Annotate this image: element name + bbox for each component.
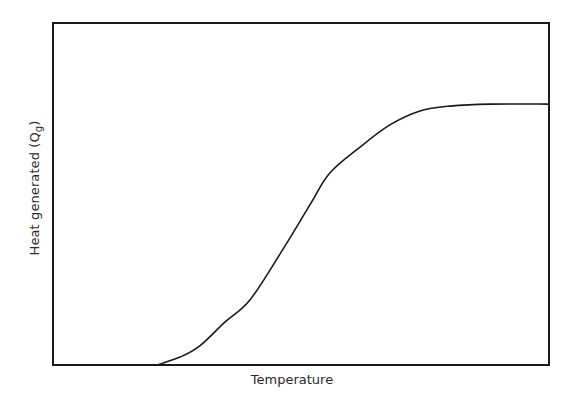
y-axis-label-close: ) <box>27 121 42 126</box>
plot-frame <box>53 23 549 365</box>
heat-generated-curve <box>157 104 549 365</box>
y-axis-label-main: Heat generated (Q <box>27 132 42 255</box>
chart-canvas <box>0 0 575 406</box>
x-axis-label: Temperature <box>251 372 333 387</box>
y-axis-label-subscript: g <box>33 126 44 132</box>
y-axis-label: Heat generated (Qg) <box>27 121 44 256</box>
